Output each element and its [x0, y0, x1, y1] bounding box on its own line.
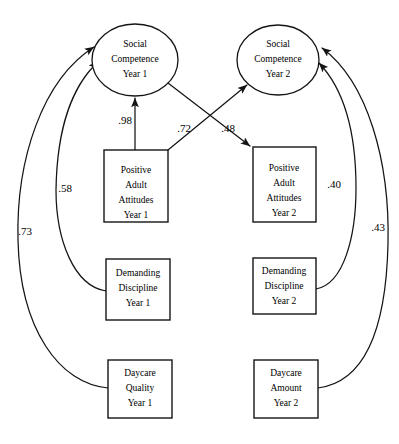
coefficient-label-dd2-to-sc2: .40	[327, 178, 341, 190]
diagram-svg: Social Competence Year 1 Social Competen…	[0, 0, 399, 444]
node-label-paa1-line1: Positive	[121, 165, 152, 175]
node-label-dd1-line1: Demanding	[116, 268, 161, 278]
node-label-sc1-line2: Competence	[111, 54, 158, 64]
node-label-sc1-line1: Social	[123, 39, 147, 49]
coefficient-label-dq1-to-sc1: .73	[18, 225, 32, 237]
node-label-sc1-line3: Year 1	[123, 69, 148, 79]
node-demanding-discipline-year-1[interactable]: Demanding Discipline Year 1	[106, 259, 170, 320]
node-label-paa2-line4: Year 2	[272, 208, 297, 218]
node-label-paa1-line3: Attitudes	[119, 195, 154, 205]
coefficient-label-da2-to-sc2: .43	[371, 221, 385, 233]
node-label-dd2-line3: Year 2	[272, 296, 297, 306]
node-label-dq1-line3: Year 1	[128, 398, 153, 408]
node-label-paa2-line3: Attitudes	[267, 193, 302, 203]
node-positive-adult-attitudes-year-1[interactable]: Positive Adult Attitudes Year 1	[104, 150, 168, 222]
node-label-dq1-line2: Quality	[126, 383, 155, 393]
node-label-paa2-line2: Adult	[273, 178, 295, 188]
node-social-competence-year-1[interactable]: Social Competence Year 1	[92, 24, 178, 96]
coefficient-label-sc1-to-paa2: .48	[221, 122, 235, 134]
node-label-dd2-line2: Discipline	[264, 281, 303, 291]
path-line-daycare-amount-to-sc2	[318, 48, 388, 388]
node-daycare-amount-year-2[interactable]: Daycare Amount Year 2	[254, 360, 318, 418]
node-demanding-discipline-year-2[interactable]: Demanding Discipline Year 2	[253, 258, 316, 314]
coefficient-label-dd1-to-sc1: .58	[58, 182, 72, 194]
path-line-daycare-quality-to-sc1	[18, 47, 108, 388]
coefficient-label-paa1-to-sc2: .72	[177, 122, 191, 134]
node-label-da2-line1: Daycare	[270, 368, 302, 378]
node-label-paa1-line2: Adult	[125, 180, 147, 190]
node-social-competence-year-2[interactable]: Social Competence Year 2	[237, 25, 319, 95]
coefficient-label-paa1-to-sc1: .98	[118, 114, 132, 126]
path-line-demanding-discipline-y2-to-sc2	[316, 63, 356, 289]
node-daycare-quality-year-1[interactable]: Daycare Quality Year 1	[108, 360, 172, 418]
node-label-da2-line2: Amount	[270, 383, 302, 393]
node-label-paa2-line1: Positive	[269, 163, 300, 173]
node-label-sc2-line3: Year 2	[266, 69, 291, 79]
node-positive-adult-attitudes-year-2[interactable]: Positive Adult Attitudes Year 2	[253, 147, 316, 222]
node-label-paa1-line4: Year 1	[124, 210, 149, 220]
node-label-sc2-line2: Competence	[254, 54, 301, 64]
path-diagram-canvas: Social Competence Year 1 Social Competen…	[0, 0, 399, 444]
node-label-dd1-line2: Discipline	[118, 283, 157, 293]
path-line-paa1-to-sc2	[168, 85, 247, 150]
node-label-dq1-line1: Daycare	[124, 368, 156, 378]
path-line-demanding-discipline-to-sc1	[56, 62, 106, 291]
node-label-da2-line3: Year 2	[274, 398, 299, 408]
node-label-sc2-line1: Social	[266, 39, 290, 49]
node-label-dd1-line3: Year 1	[126, 298, 151, 308]
node-label-dd2-line1: Demanding	[262, 266, 307, 276]
